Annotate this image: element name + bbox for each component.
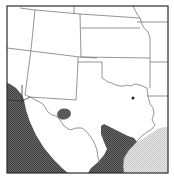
colorado-nm-line xyxy=(7,48,97,58)
missouri-river xyxy=(133,6,150,58)
red-river xyxy=(102,78,147,88)
map-container xyxy=(0,0,174,181)
shaded-region-gulf xyxy=(123,127,168,173)
az-nm-vertical xyxy=(25,10,35,95)
colorado-east xyxy=(80,14,81,57)
point-marker-north-texas xyxy=(132,97,135,100)
sabine-river xyxy=(147,88,155,125)
nm-south xyxy=(25,95,30,97)
ok-panhandle-west xyxy=(78,57,102,78)
map-svg xyxy=(0,0,174,181)
shaded-region-mexico-west xyxy=(7,83,68,173)
rio-grande xyxy=(43,104,100,163)
nm-east xyxy=(30,62,78,100)
